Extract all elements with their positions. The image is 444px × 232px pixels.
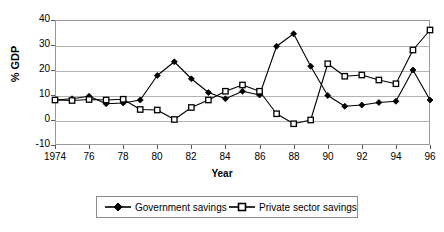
data-point-marker-filled-diamond xyxy=(240,88,246,94)
data-point-marker-open-square xyxy=(342,74,347,79)
data-point-marker-open-square xyxy=(257,89,262,94)
data-point-marker-open-square xyxy=(359,72,364,77)
data-point-marker-filled-diamond xyxy=(222,96,228,102)
x-axis-tick xyxy=(328,145,329,149)
data-point-marker-filled-diamond xyxy=(359,102,365,108)
data-point-marker-open-square xyxy=(86,97,91,102)
data-point-marker-open-square xyxy=(172,117,177,122)
x-axis-tick xyxy=(89,145,90,149)
data-point-marker-open-square xyxy=(69,98,74,103)
x-axis-tick xyxy=(123,145,124,149)
data-point-marker-filled-diamond xyxy=(376,100,382,106)
x-axis-tick xyxy=(294,145,295,149)
chart-legend: Government savings Private sector saving… xyxy=(96,196,358,218)
data-point-marker-open-square xyxy=(376,77,381,82)
filled-diamond-marker-icon xyxy=(105,201,131,213)
data-point-marker-open-square xyxy=(189,105,194,110)
y-axis-tick-label: 40 xyxy=(14,13,50,24)
data-point-marker-open-square xyxy=(410,47,415,52)
x-axis-tick xyxy=(396,145,397,149)
y-axis-tick xyxy=(51,120,55,121)
x-axis-tick xyxy=(157,145,158,149)
data-point-marker-filled-diamond xyxy=(410,67,416,73)
data-point-marker-open-square xyxy=(103,97,108,102)
data-point-marker-filled-diamond xyxy=(342,103,348,109)
data-point-marker-filled-diamond xyxy=(325,93,331,99)
x-axis-tick xyxy=(430,145,431,149)
y-axis-tick xyxy=(51,95,55,96)
data-point-marker-open-square xyxy=(325,61,330,66)
y-axis-tick xyxy=(51,70,55,71)
y-axis-tick-label: -10 xyxy=(14,138,50,149)
series-line-private-sector-savings xyxy=(55,30,430,124)
y-axis-tick-label: 30 xyxy=(14,38,50,49)
legend-item-government-savings: Government savings xyxy=(105,197,227,217)
x-axis-tick-label: 96 xyxy=(410,151,444,162)
y-axis-tick xyxy=(51,20,55,21)
data-point-marker-filled-diamond xyxy=(427,97,433,103)
data-point-marker-open-square xyxy=(223,89,228,94)
y-axis-tick-label: 20 xyxy=(14,63,50,74)
data-point-marker-open-square xyxy=(155,107,160,112)
legend-label-government-savings: Government savings xyxy=(135,202,227,213)
legend-label-private-sector-savings: Private sector savings xyxy=(259,202,357,213)
data-point-marker-open-square xyxy=(308,117,313,122)
data-point-marker-open-square xyxy=(393,81,398,86)
x-axis-tick-label: 84 xyxy=(205,151,245,162)
data-point-marker-open-square xyxy=(138,107,143,112)
chart-figure: % GDP Year Government savings Private se… xyxy=(0,0,444,232)
x-axis-label: Year xyxy=(0,168,444,179)
series-layer xyxy=(55,20,430,145)
y-axis-tick-label: 10 xyxy=(14,88,50,99)
data-point-marker-open-square xyxy=(427,27,432,32)
x-axis-tick xyxy=(362,145,363,149)
data-point-marker-filled-diamond xyxy=(308,63,314,69)
open-square-marker-icon xyxy=(229,201,255,213)
data-point-marker-open-square xyxy=(240,82,245,87)
data-point-marker-filled-diamond xyxy=(393,98,399,104)
legend-item-private-sector-savings: Private sector savings xyxy=(229,197,357,217)
x-axis-tick xyxy=(225,145,226,149)
data-point-marker-open-square xyxy=(120,97,125,102)
data-point-marker-open-square xyxy=(274,111,279,116)
data-point-marker-open-square xyxy=(291,121,296,126)
x-axis-tick xyxy=(260,145,261,149)
series-line-government-savings xyxy=(55,34,430,107)
data-point-marker-open-square xyxy=(206,97,211,102)
y-axis-tick-label: 0 xyxy=(14,113,50,124)
data-point-marker-open-square xyxy=(52,97,57,102)
y-axis-tick xyxy=(51,45,55,46)
x-axis-tick xyxy=(191,145,192,149)
x-axis-tick xyxy=(55,145,56,149)
